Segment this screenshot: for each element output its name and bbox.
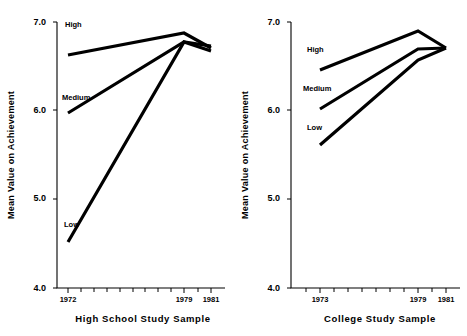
x-tick-marks [306, 288, 446, 293]
chart-svg-high-school: Mean Value on Achievement 7.0 6.0 5.0 4.… [0, 0, 233, 336]
series-label-medium: Medium [62, 93, 91, 102]
y-tick-marks [287, 22, 291, 288]
y-tick-label-5: 5.0 [33, 193, 46, 203]
x-tick-label-third: 1981 [203, 295, 220, 304]
x-axis-title: High School Study Sample [75, 313, 210, 324]
x-tick-label-second: 1979 [176, 295, 193, 304]
y-tick-label-4: 4.0 [267, 283, 280, 293]
y-axis-title: Mean Value on Achievement [240, 91, 250, 219]
series-label-high: High [307, 45, 324, 54]
axis-lines [57, 22, 225, 288]
data-line-medium [68, 42, 211, 113]
chart-panel-high-school: Mean Value on Achievement 7.0 6.0 5.0 4.… [0, 0, 233, 336]
series-label-low: Low [64, 220, 79, 229]
series-label-high: High [65, 20, 82, 29]
figure-container: Mean Value on Achievement 7.0 6.0 5.0 4.… [0, 0, 467, 336]
y-tick-label-6: 6.0 [267, 105, 280, 115]
x-tick-label-first: 1972 [60, 295, 77, 304]
series-label-low: Low [307, 123, 322, 132]
y-tick-label-4: 4.0 [33, 283, 46, 293]
y-tick-label-6: 6.0 [33, 105, 46, 115]
x-tick-label-first: 1973 [312, 295, 329, 304]
y-tick-marks [53, 22, 57, 288]
x-tick-label-third: 1981 [438, 295, 455, 304]
x-tick-label-second: 1979 [410, 295, 427, 304]
chart-panel-college: Mean Value on Achievement 7.0 6.0 5.0 4.… [234, 0, 467, 336]
y-tick-label-7: 7.0 [267, 17, 280, 27]
chart-svg-college: Mean Value on Achievement 7.0 6.0 5.0 4.… [234, 0, 467, 336]
data-line-low [68, 42, 211, 242]
x-axis-title: College Study Sample [324, 313, 436, 324]
y-tick-label-7: 7.0 [33, 17, 46, 27]
data-line-high [320, 31, 446, 70]
series-label-medium: Medium [303, 84, 332, 93]
y-axis-title: Mean Value on Achievement [6, 91, 16, 219]
y-tick-label-5: 5.0 [267, 193, 280, 203]
x-tick-marks [68, 288, 211, 293]
axis-lines [291, 22, 460, 288]
